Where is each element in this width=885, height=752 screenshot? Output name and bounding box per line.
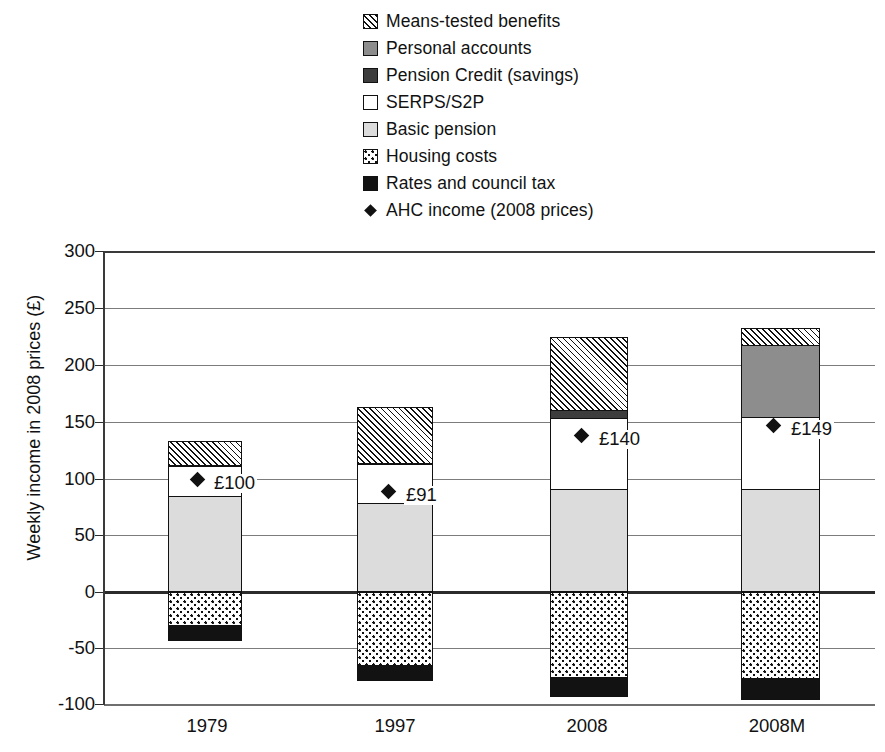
bar-segment-basic-pension[interactable] [550, 489, 628, 592]
bar-segment-housing-costs[interactable] [357, 592, 433, 666]
chart-plot-area: Weekly income in 2008 prices (£) 300 250… [0, 0, 885, 752]
y-tick-label: 100 [33, 470, 95, 489]
bar-segment-rates-and-council-tax[interactable] [741, 678, 820, 700]
bar-segment-housing-costs[interactable] [741, 592, 820, 679]
y-tick-label: 150 [33, 413, 95, 432]
gridline-minus-100 [104, 704, 875, 706]
y-tick-label: 50 [33, 526, 95, 545]
y-tick-label: 0 [33, 583, 95, 602]
y-tick-label: 250 [33, 299, 95, 318]
bar-segment-personal-accounts[interactable] [741, 345, 820, 418]
bar-segment-basic-pension[interactable] [168, 496, 242, 592]
y-axis-line [103, 252, 105, 705]
bar-segment-rates-and-council-tax[interactable] [357, 665, 433, 681]
ahc-marker-label-1979: £100 [212, 474, 257, 493]
bar-segment-means-tested-benefits[interactable] [741, 328, 820, 346]
ahc-marker-label-2008M: £149 [789, 420, 834, 439]
bar-segment-means-tested-benefits[interactable] [168, 441, 242, 466]
y-tick-label: -50 [33, 639, 95, 658]
ahc-marker-1997 [381, 484, 396, 499]
gridline-250 [104, 308, 875, 309]
x-tick-label-1997: 1997 [374, 717, 415, 736]
ahc-marker-label-1997: £91 [404, 486, 439, 505]
bar-segment-rates-and-council-tax[interactable] [550, 677, 628, 697]
gridline-300 [104, 251, 875, 253]
ahc-marker-2008 [574, 428, 589, 443]
y-tick-label: 200 [33, 356, 95, 375]
bar-segment-rates-and-council-tax[interactable] [168, 625, 242, 641]
y-tick-label: 300 [33, 242, 95, 261]
x-tick-label-1979: 1979 [186, 717, 227, 736]
x-tick-label-2008M: 2008M [749, 717, 806, 736]
bar-segment-housing-costs[interactable] [550, 592, 628, 678]
x-tick-label-2008: 2008 [566, 717, 607, 736]
bar-segment-basic-pension[interactable] [741, 489, 820, 592]
ahc-marker-2008M [766, 418, 781, 433]
bar-segment-means-tested-benefits[interactable] [550, 337, 628, 411]
ahc-marker-1979 [190, 472, 205, 487]
ahc-marker-label-2008: £140 [597, 430, 642, 449]
bar-segment-basic-pension[interactable] [357, 503, 433, 592]
bar-segment-means-tested-benefits[interactable] [357, 407, 433, 464]
bar-segment-housing-costs[interactable] [168, 592, 242, 626]
y-tick-label: -100 [33, 695, 95, 714]
